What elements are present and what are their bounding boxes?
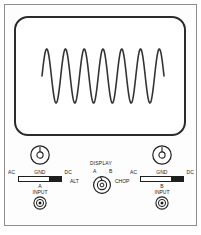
oscilloscope-panel: AC GND DC A INPUT DISPLAY A B ALT C xyxy=(0,0,201,235)
coupling-label-gnd-a: GND xyxy=(34,169,45,175)
volts-per-division-knob-a[interactable] xyxy=(29,144,51,166)
display-selector-title: DISPLAY xyxy=(66,160,136,166)
channel-b-knob-row xyxy=(128,144,196,168)
display-position-alt[interactable]: ALT xyxy=(70,178,79,184)
channel-a-input-caption: A INPUT xyxy=(6,183,74,195)
crt-bezel xyxy=(14,16,186,136)
channel-b-input-caption: B INPUT xyxy=(128,183,196,195)
channel-b-coupling-labels: AC GND DC xyxy=(128,168,196,175)
coupling-label-dc-b: DC xyxy=(187,169,194,175)
coupling-switch-a[interactable] xyxy=(18,176,62,182)
channel-a-controls: AC GND DC A INPUT xyxy=(6,144,74,210)
channel-a-bnc-row xyxy=(6,196,74,210)
channel-a-input-label: INPUT xyxy=(6,189,74,195)
display-position-a[interactable]: A xyxy=(93,168,96,174)
coupling-label-ac-a: AC xyxy=(8,169,15,175)
display-selector-group: DISPLAY A B ALT CHOP xyxy=(66,160,136,204)
channel-a-coupling-labels: AC GND DC xyxy=(6,168,74,175)
coupling-label-gnd-b: GND xyxy=(156,169,167,175)
channel-b-bnc-row xyxy=(128,196,196,210)
bnc-connector-b[interactable] xyxy=(155,196,169,210)
coupling-label-ac-b: AC xyxy=(130,169,137,175)
display-position-b[interactable]: B xyxy=(109,168,112,174)
coupling-switch-b[interactable] xyxy=(140,176,184,182)
channel-b-input-label: INPUT xyxy=(128,189,196,195)
channel-a-knob-row xyxy=(6,144,74,168)
coupling-switch-b-thumb[interactable] xyxy=(171,177,183,181)
bnc-connector-a[interactable] xyxy=(33,196,47,210)
waveform-trace xyxy=(42,49,164,103)
display-mode-knob[interactable] xyxy=(92,175,112,195)
crt-display xyxy=(16,18,184,134)
coupling-switch-a-thumb[interactable] xyxy=(49,177,61,181)
channel-b-controls: AC GND DC B INPUT xyxy=(128,144,196,210)
volts-per-division-knob-b[interactable] xyxy=(151,144,173,166)
